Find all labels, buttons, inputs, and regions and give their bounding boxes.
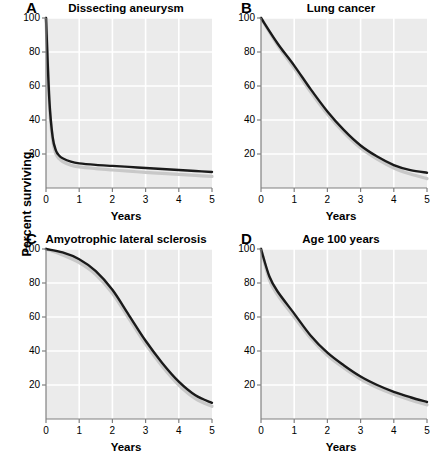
- y-tick-label: 20: [6, 149, 40, 159]
- y-tick-label: 60: [6, 81, 40, 91]
- y-tick-label: 20: [221, 380, 255, 390]
- x-tick-label: 0: [38, 195, 54, 205]
- x-tick-label: 3: [353, 426, 369, 436]
- panel-b: B Lung cancer Years 20406080100012345: [215, 0, 430, 231]
- y-tick-label: 100: [6, 13, 40, 23]
- x-tick-label: 4: [171, 426, 187, 436]
- x-axis-label-a: Years: [40, 209, 212, 223]
- survival-curves-figure: Percent surviving A Dissecting aneurysm …: [0, 0, 430, 462]
- x-tick-label: 0: [38, 426, 54, 436]
- x-tick-label: 1: [71, 426, 87, 436]
- y-tick-label: 80: [6, 47, 40, 57]
- y-tick-label: 100: [221, 13, 255, 23]
- x-tick-label: 1: [286, 426, 302, 436]
- panel-c: C Amyotrophic lateral sclerosis Years 20…: [0, 231, 215, 462]
- plot-background: [261, 18, 427, 188]
- x-tick-label: 2: [104, 426, 120, 436]
- x-tick-label: 4: [171, 195, 187, 205]
- panel-d: D Age 100 years Years 20406080100012345: [215, 231, 430, 462]
- y-tick-label: 100: [6, 244, 40, 254]
- y-tick-label: 20: [6, 380, 40, 390]
- x-tick-label: 5: [419, 195, 430, 205]
- y-tick-label: 60: [221, 312, 255, 322]
- x-axis-label-d: Years: [255, 440, 427, 454]
- y-tick-label: 100: [221, 244, 255, 254]
- y-tick-label: 40: [221, 346, 255, 356]
- y-tick-label: 40: [221, 115, 255, 125]
- y-tick-label: 40: [6, 346, 40, 356]
- y-tick-label: 80: [221, 47, 255, 57]
- x-tick-label: 4: [386, 195, 402, 205]
- y-tick-label: 80: [6, 278, 40, 288]
- x-tick-label: 5: [419, 426, 430, 436]
- x-axis-label-c: Years: [40, 440, 212, 454]
- x-tick-label: 2: [319, 426, 335, 436]
- x-axis-label-b: Years: [255, 209, 427, 223]
- x-tick-label: 3: [138, 195, 154, 205]
- x-tick-label: 2: [319, 195, 335, 205]
- y-tick-label: 80: [221, 278, 255, 288]
- x-tick-label: 3: [138, 426, 154, 436]
- x-tick-label: 1: [71, 195, 87, 205]
- y-tick-label: 40: [6, 115, 40, 125]
- x-tick-label: 2: [104, 195, 120, 205]
- x-tick-label: 0: [253, 426, 269, 436]
- y-tick-label: 60: [221, 81, 255, 91]
- x-tick-label: 0: [253, 195, 269, 205]
- y-tick-label: 60: [6, 312, 40, 322]
- y-tick-label: 20: [221, 149, 255, 159]
- x-tick-label: 1: [286, 195, 302, 205]
- x-tick-label: 4: [386, 426, 402, 436]
- x-tick-label: 3: [353, 195, 369, 205]
- panel-a: A Dissecting aneurysm Years 204060801000…: [0, 0, 215, 231]
